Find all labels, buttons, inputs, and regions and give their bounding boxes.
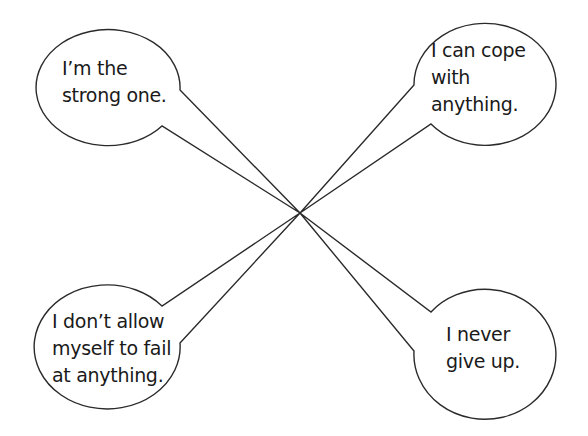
bubble-text-top-left: I’m the strong one. xyxy=(62,55,167,109)
bubble-text-bottom-right: I never give up. xyxy=(446,321,520,375)
speech-bubble-bottom-right xyxy=(300,213,556,419)
bubble-text-top-right: I can cope with anything. xyxy=(431,37,526,118)
bubble-text-bottom-left: I don’t allow myself to fail at anything… xyxy=(52,308,171,389)
